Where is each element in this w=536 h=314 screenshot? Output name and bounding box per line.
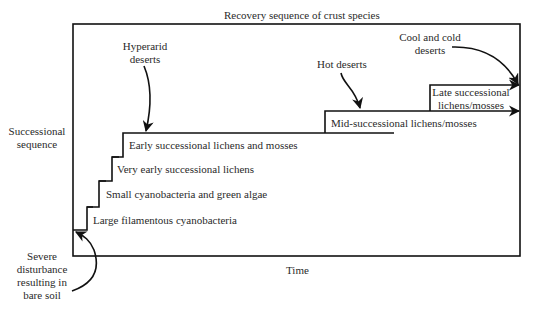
hyperarid-arrow [144,66,150,131]
stage-label-small-cyanobacteria: Small cyanobacteria and green algae [106,188,267,201]
stage-label-very-early-lichens: Very early successional lichens [117,163,254,176]
annotation-hyperarid: Hyperarid deserts [118,40,172,66]
y-axis-label: Successional sequence [2,125,72,151]
annotation-severe-disturbance: Severe disturbance resulting in bare soi… [12,250,72,302]
stage-label-late-successional: Late successional lichens/mosses [430,86,512,112]
annotation-cool-deserts: Cool and cold deserts [390,31,470,57]
stage-label-mid-successional: Mid-successional lichens/mosses [331,117,477,130]
x-axis-label: Time [286,264,309,277]
annotation-hot-deserts: Hot deserts [317,58,367,71]
disturbance-arrow [72,232,96,291]
stage-label-large-filamentous: Large filamentous cyanobacteria [93,214,237,227]
diagram-title: Recovery sequence of crust species [224,9,380,22]
hot-deserts-arrow [341,73,360,108]
stage-label-early-lichens-mosses: Early successional lichens and mosses [129,139,298,152]
